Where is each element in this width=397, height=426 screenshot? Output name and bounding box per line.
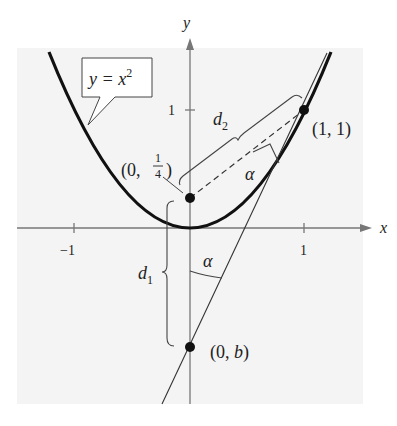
y-intercept-label: (0, b) xyxy=(210,342,249,363)
alpha-bottom-label: α xyxy=(203,251,213,271)
focus-point xyxy=(185,193,195,203)
alpha-top-label: α xyxy=(245,164,255,184)
focus-label: (0, xyxy=(121,160,141,181)
tangent-point-label: (1, 1) xyxy=(312,119,351,140)
x-tick-label-neg1: −1 xyxy=(60,243,75,258)
y-axis-label: y xyxy=(181,14,191,32)
focus-label-close: ) xyxy=(166,160,172,181)
x-tick-label-1: 1 xyxy=(300,243,307,258)
parabola-reflection-diagram: x −1 1 y 1 y = x2 d2 d1 α α (0, 1 4 ) (1… xyxy=(0,0,397,426)
x-axis-label: x xyxy=(379,219,387,236)
y-intercept-point xyxy=(185,342,195,352)
focus-label-numerator: 1 xyxy=(155,151,161,165)
equation-lhs: y = x xyxy=(87,69,126,89)
tangent-point xyxy=(299,105,309,115)
focus-label-denominator: 4 xyxy=(155,167,161,181)
y-tick-label-1: 1 xyxy=(168,103,175,118)
equation-label: y = x2 xyxy=(87,66,132,89)
equation-exponent: 2 xyxy=(126,66,132,80)
